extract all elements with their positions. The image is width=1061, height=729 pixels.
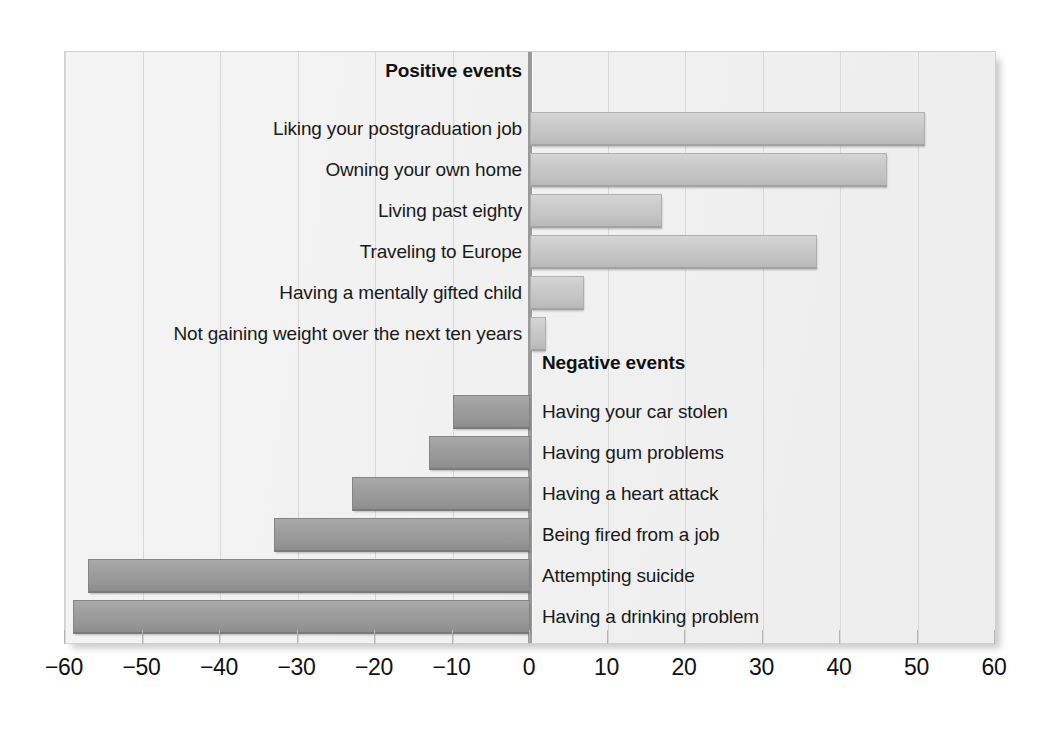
bar [88,559,530,593]
x-tick-label: −30 [278,654,316,681]
x-tick-mark [917,630,918,644]
bar-label: Having a drinking problem [542,600,759,634]
bar-label: Traveling to Europe [65,235,522,269]
bar-label: Having a mentally gifted child [65,276,522,310]
x-tick-mark [607,630,608,644]
bar [429,436,530,470]
bar-label: Liking your postgraduation job [65,112,522,146]
x-tick-label: 50 [904,654,929,681]
x-tick-mark [297,630,298,644]
x-tick-label: −50 [123,654,161,681]
bar [530,317,546,351]
section-heading-negative: Negative events [542,352,685,374]
bar [530,235,817,269]
bar [530,276,584,310]
bar-label: Having a heart attack [542,477,718,511]
x-tick-mark [994,630,995,644]
x-tick-label: −60 [45,654,83,681]
bar-label: Attempting suicide [542,559,695,593]
bar-label: Owning your own home [65,153,522,187]
chart-figure: Liking your postgraduation jobOwning you… [0,0,1061,729]
bar [530,194,662,228]
x-tick-label: 40 [827,654,852,681]
x-tick-mark [452,630,453,644]
x-tick-mark [142,630,143,644]
x-tick-mark [64,630,65,644]
x-tick-mark [684,630,685,644]
section-heading-positive: Positive events [385,60,522,82]
x-tick-mark [219,630,220,644]
x-tick-mark [839,630,840,644]
x-tick-mark [529,630,530,644]
x-tick-mark [762,630,763,644]
bar-label: Being fired from a job [542,518,719,552]
x-tick-label: −20 [355,654,393,681]
plot-area: Liking your postgraduation jobOwning you… [64,51,996,644]
bar-label: Having your car stolen [542,395,728,429]
x-tick-label: 20 [672,654,697,681]
bar [352,477,530,511]
bar [530,153,887,187]
x-axis: −60−50−40−30−20−100102030405060 [64,644,996,704]
x-tick-label: 0 [523,654,535,681]
x-tick-label: 60 [982,654,1007,681]
x-tick-label: −40 [200,654,238,681]
bar [530,112,925,146]
bar [453,395,531,429]
bar [73,600,530,634]
bar-label: Not gaining weight over the next ten yea… [65,317,522,351]
bar [274,518,530,552]
bar-label: Having gum problems [542,436,724,470]
bar-label: Living past eighty [65,194,522,228]
x-tick-label: 30 [749,654,774,681]
x-tick-mark [374,630,375,644]
x-tick-label: −10 [433,654,471,681]
x-tick-label: 10 [594,654,619,681]
